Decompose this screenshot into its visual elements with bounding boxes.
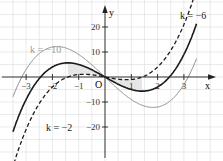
y-tick-label: 20	[91, 22, 101, 32]
y-tick-label: −10	[86, 97, 101, 107]
y-tick-label: 10	[91, 47, 101, 57]
series-label: k = −6	[180, 10, 206, 21]
function-plot: −3−2−11232010−10−20 x y O k = −10k = −6k…	[0, 0, 223, 161]
x-axis-label: x	[205, 80, 210, 91]
x-tick-label: 1	[129, 81, 134, 91]
series-label: k = −10	[30, 44, 61, 55]
x-tick-label: −3	[21, 81, 31, 91]
x-tick-label: −1	[74, 81, 84, 91]
x-tick-label: 2	[155, 81, 160, 91]
origin-label: O	[95, 79, 102, 90]
x-tick-label: −2	[48, 81, 58, 91]
series-label: k = −2	[46, 122, 72, 133]
x-tick-label: 3	[182, 81, 187, 91]
y-axis-arrow-icon	[102, 5, 107, 13]
y-tick-label: −20	[86, 122, 101, 132]
y-axis-label: y	[109, 7, 114, 18]
x-axis-arrow-icon	[208, 74, 216, 79]
